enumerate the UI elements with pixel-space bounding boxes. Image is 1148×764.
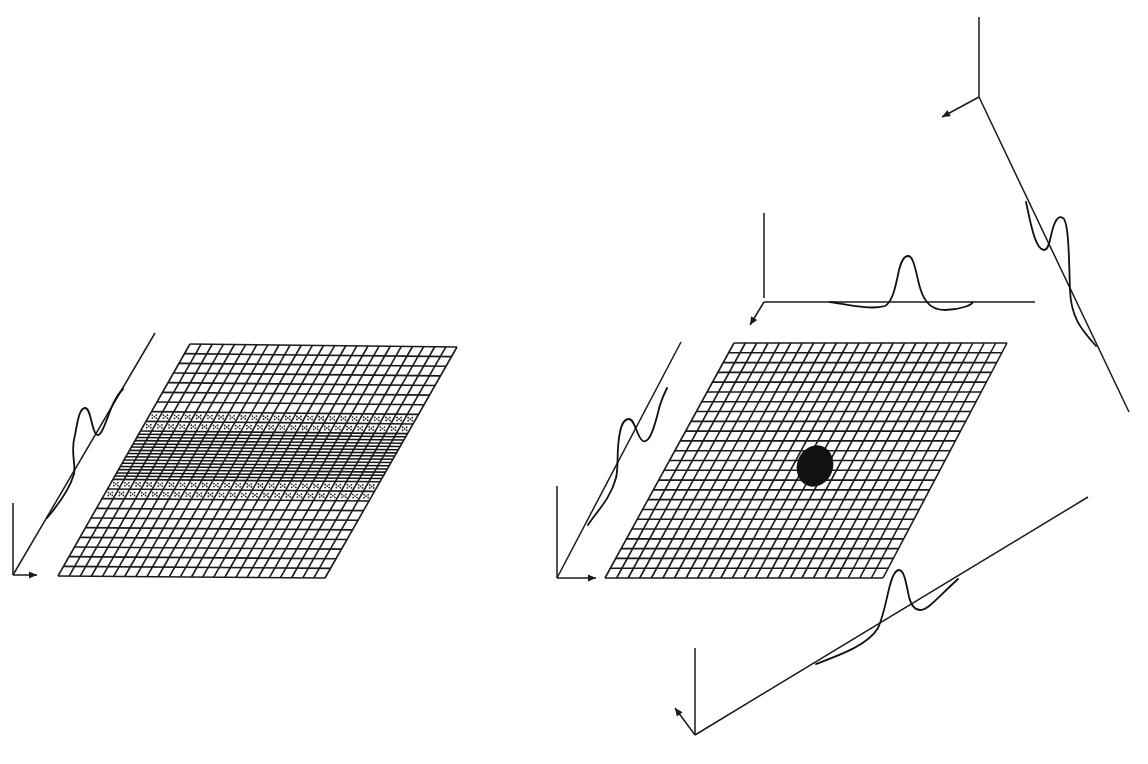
band-dot: [262, 483, 264, 485]
band-dot: [273, 486, 275, 488]
bottom-profile-curve: [816, 570, 958, 664]
band-dot: [113, 485, 115, 487]
band-dot: [307, 419, 309, 421]
band-dot: [356, 494, 358, 496]
band-dot: [304, 485, 306, 487]
band-dot: [324, 487, 326, 489]
band-dot: [226, 484, 228, 486]
band-dot: [223, 492, 225, 494]
band-dot: [268, 428, 270, 430]
band-dot: [213, 427, 215, 429]
band-dot: [190, 424, 192, 426]
band-dot: [178, 495, 180, 497]
band-dot: [341, 497, 343, 499]
band-dot: [274, 496, 276, 498]
band-dot: [172, 424, 174, 426]
band-dot: [274, 418, 276, 420]
central-spot: [791, 440, 839, 492]
band-dot: [189, 414, 191, 416]
band-dot: [337, 485, 339, 487]
band-dot: [145, 492, 147, 494]
band-dot: [400, 417, 402, 419]
band-dot: [155, 417, 157, 419]
band-dot: [219, 492, 221, 494]
band-dot: [261, 425, 263, 427]
band-dot: [341, 494, 343, 496]
band-dot: [359, 427, 361, 429]
band-dot: [232, 494, 234, 496]
band-dot: [212, 495, 214, 497]
band-dot: [132, 493, 134, 495]
band-dot: [329, 416, 331, 418]
band-dot: [174, 417, 176, 419]
band-dot: [298, 417, 300, 419]
band-dot: [300, 416, 302, 418]
band-dot: [376, 418, 378, 420]
band-dot: [343, 495, 345, 497]
band-dot: [194, 424, 196, 426]
band-dot: [328, 487, 330, 489]
band-dot: [196, 492, 198, 494]
band-dot: [246, 486, 248, 488]
band-dot: [217, 424, 219, 426]
band-dot: [157, 482, 159, 484]
band-dot: [198, 416, 200, 418]
band-dot: [267, 496, 269, 498]
band-dot: [151, 417, 153, 419]
band-dot: [328, 426, 330, 428]
band-dot: [301, 496, 303, 498]
band-dot: [306, 428, 308, 430]
arrow-up-left-icon: [675, 708, 683, 717]
band-dot: [239, 483, 241, 485]
band-dot: [119, 492, 121, 494]
band-dot: [178, 417, 180, 419]
band-dot: [246, 425, 248, 427]
arrow-right-icon: [29, 571, 37, 578]
band-dot: [191, 486, 193, 488]
band-dot: [293, 427, 295, 429]
band-dot: [229, 415, 231, 417]
band-dot: [345, 497, 347, 499]
band-dot: [400, 420, 402, 422]
band-dot: [291, 486, 293, 488]
band-dot: [208, 495, 210, 497]
band-dot: [278, 415, 280, 417]
band-dot: [349, 485, 351, 487]
band-dot: [373, 487, 375, 489]
band-dot: [295, 425, 297, 427]
band-dot: [182, 484, 184, 486]
band-dot: [302, 428, 304, 430]
band-dot: [109, 493, 111, 495]
band-dot: [361, 426, 363, 428]
band-dot: [240, 418, 242, 420]
band-dot: [128, 485, 130, 487]
band-dot: [274, 415, 276, 417]
band-dot: [218, 418, 220, 420]
band-dot: [146, 482, 148, 484]
band-dot: [374, 416, 376, 418]
band-dot: [315, 485, 317, 487]
band-dot: [363, 419, 365, 421]
band-dot: [407, 420, 409, 422]
band-dot: [317, 484, 319, 486]
arrow-down-left-icon: [750, 316, 757, 325]
band-dot: [194, 427, 196, 429]
right-left-axis-diagonal: [557, 342, 681, 578]
band-dot: [235, 486, 237, 488]
band-dot: [176, 416, 178, 418]
band-dot: [284, 483, 286, 485]
band-dot: [220, 416, 222, 418]
band-dot: [319, 496, 321, 498]
band-dot: [378, 419, 380, 421]
band-dot: [293, 485, 295, 487]
band-dot: [124, 485, 126, 487]
band-dot: [407, 417, 409, 419]
band-dot: [115, 483, 117, 485]
band-dot: [367, 416, 369, 418]
band-dot: [267, 418, 269, 420]
band-dot: [124, 482, 126, 484]
band-dot: [219, 495, 221, 497]
band-dot: [279, 428, 281, 430]
band-dot: [324, 484, 326, 486]
band-dot: [368, 429, 370, 431]
